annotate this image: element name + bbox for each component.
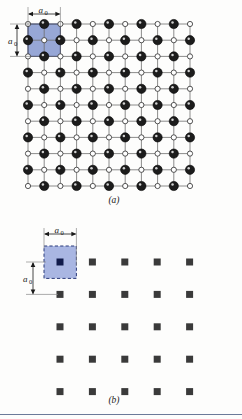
panel-caption-a: (a) <box>108 195 119 206</box>
filled-ion <box>72 84 81 93</box>
filled-ion-highlight <box>171 118 174 121</box>
open-ion <box>123 183 128 188</box>
filled-ion-highlight <box>187 102 190 105</box>
lattice-point <box>186 388 193 395</box>
filled-ion-highlight <box>58 167 61 170</box>
filled-ion-highlight <box>106 21 109 24</box>
figure-background <box>0 0 242 419</box>
open-ion <box>139 38 144 43</box>
filled-ion-highlight <box>123 102 126 105</box>
filled-ion-highlight <box>25 135 28 138</box>
crystal-lattice-figure: a 0 a 0 (a) <box>0 0 242 419</box>
lattice-point <box>89 259 96 266</box>
filled-ion <box>23 100 32 109</box>
filled-ion-highlight <box>139 54 142 57</box>
filled-ion-highlight <box>123 167 126 170</box>
filled-ion-highlight <box>25 70 28 73</box>
open-ion <box>171 135 176 140</box>
dim-label-a0-left-subscript: 0 <box>14 40 17 47</box>
filled-ion <box>153 165 162 174</box>
filled-ion <box>40 52 49 61</box>
filled-ion-highlight <box>90 37 93 40</box>
open-ion <box>90 54 95 59</box>
filled-ion <box>137 19 146 28</box>
dim-label-a0-left-subscript-b: 0 <box>29 278 32 285</box>
open-ion <box>106 70 111 75</box>
filled-ion <box>23 133 32 142</box>
filled-ion-highlight <box>25 102 28 105</box>
open-ion <box>155 183 160 188</box>
filled-ion <box>185 68 194 77</box>
open-ion <box>155 86 160 91</box>
lattice-point <box>57 356 64 363</box>
filled-ion <box>121 68 130 77</box>
open-ion <box>90 119 95 124</box>
open-ion <box>42 167 47 172</box>
dim-label-a0-top-symbol: a <box>39 5 44 15</box>
filled-ion <box>56 165 65 174</box>
filled-ion-highlight <box>139 151 142 154</box>
filled-ion <box>72 149 81 158</box>
filled-ion-highlight <box>171 183 174 186</box>
filled-ion-highlight <box>42 151 45 154</box>
filled-ion <box>72 117 81 126</box>
filled-ion-highlight <box>187 37 190 40</box>
filled-ion-highlight <box>58 135 61 138</box>
filled-ion-highlight <box>155 102 158 105</box>
filled-ion <box>185 165 194 174</box>
filled-ion <box>72 52 81 61</box>
open-ion <box>106 167 111 172</box>
panel-caption-b: (b) <box>108 395 119 406</box>
filled-ion <box>169 84 178 93</box>
filled-ion-highlight <box>42 86 45 89</box>
open-ion <box>187 86 192 91</box>
open-ion <box>25 86 30 91</box>
filled-ion-highlight <box>42 118 45 121</box>
lattice-point <box>121 323 128 330</box>
filled-ion <box>104 117 113 126</box>
filled-ion <box>169 117 178 126</box>
filled-ion <box>121 133 130 142</box>
filled-ion-highlight <box>90 167 93 170</box>
dim-label-a0-top-subscript: 0 <box>45 9 48 16</box>
lattice-point <box>186 259 193 266</box>
open-ion <box>58 151 63 156</box>
open-ion <box>42 135 47 140</box>
filled-ion-highlight <box>42 183 45 186</box>
filled-ion <box>104 52 113 61</box>
filled-ion-highlight <box>106 54 109 57</box>
dim-label-a0-left-symbol-b: a <box>23 274 28 284</box>
open-ion <box>155 21 160 26</box>
open-ion <box>25 183 30 188</box>
lattice-point <box>154 259 161 266</box>
filled-ion <box>121 165 130 174</box>
filled-ion-highlight <box>74 118 77 121</box>
filled-ion-highlight <box>74 151 77 154</box>
open-ion <box>42 38 47 43</box>
open-ion <box>155 54 160 59</box>
filled-ion-highlight <box>74 86 77 89</box>
open-ion <box>58 183 63 188</box>
open-ion <box>106 102 111 107</box>
filled-ion <box>153 133 162 142</box>
filled-ion <box>23 36 32 45</box>
filled-ion-highlight <box>171 54 174 57</box>
open-ion <box>42 102 47 107</box>
lattice-point <box>121 388 128 395</box>
open-ion <box>123 54 128 59</box>
filled-ion <box>72 19 81 28</box>
filled-ion-highlight <box>106 151 109 154</box>
filled-ion-highlight <box>74 183 77 186</box>
lattice-point <box>57 323 64 330</box>
filled-ion-highlight <box>123 37 126 40</box>
dim-label-a0-left-symbol: a <box>8 36 13 46</box>
filled-ion-highlight <box>139 86 142 89</box>
filled-ion-highlight <box>187 70 190 73</box>
lattice-point <box>89 291 96 298</box>
open-ion <box>90 151 95 156</box>
open-ion <box>74 167 79 172</box>
lattice-point-origin <box>57 259 64 266</box>
open-ion <box>171 102 176 107</box>
lattice-point <box>89 388 96 395</box>
filled-ion-highlight <box>187 167 190 170</box>
